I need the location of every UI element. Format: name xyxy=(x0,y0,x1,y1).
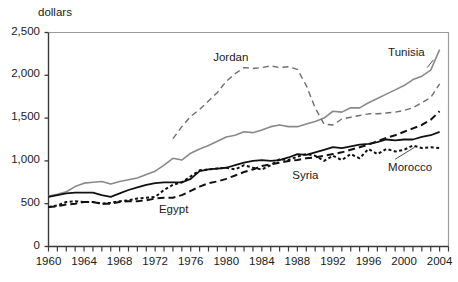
series-label-tunisia: Tunisia xyxy=(388,46,425,58)
series-line-morocco xyxy=(49,145,440,207)
series-label-morocco: Morocco xyxy=(388,161,432,173)
series-line-tunisia xyxy=(49,50,440,196)
y-axis-tick-label: 1,000 xyxy=(0,153,40,165)
y-axis-tick-label: 0 xyxy=(0,239,40,251)
x-axis-tick-label: 2004 xyxy=(418,255,458,267)
series-label-egypt: Egypt xyxy=(159,203,188,215)
series-label-jordan: Jordan xyxy=(213,51,248,63)
chart-plot-area xyxy=(0,0,458,282)
y-axis-tick-label: 2,500 xyxy=(0,25,40,37)
y-axis-tick-label: 2,000 xyxy=(0,67,40,79)
series-label-syria: Syria xyxy=(292,169,318,181)
series-line-egypt xyxy=(49,111,440,207)
y-axis-tick-label: 1,500 xyxy=(0,110,40,122)
chart-figure: dollars 05001,0001,5002,0002,50019601964… xyxy=(0,0,458,282)
series-line-jordan xyxy=(173,66,440,139)
y-axis-tick-label: 500 xyxy=(0,196,40,208)
